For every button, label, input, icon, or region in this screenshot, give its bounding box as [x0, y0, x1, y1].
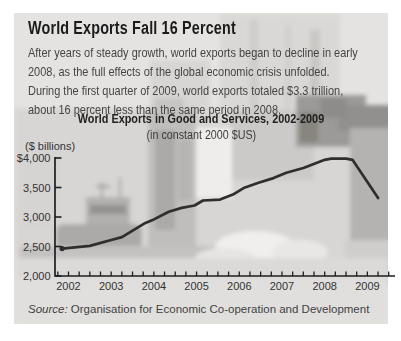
x-tick-label: 2004 — [142, 280, 166, 292]
y-tick-label: 3,500 — [23, 182, 51, 194]
y-tick-label: $4,000 — [17, 152, 51, 164]
exports-line — [62, 159, 378, 249]
x-tick-label: 2005 — [184, 280, 208, 292]
exports-line-chart: $4,0003,5003,0002,5002,00020022003200420… — [0, 0, 401, 341]
x-tick-label: 2002 — [56, 280, 80, 292]
x-tick-label: 2006 — [227, 280, 251, 292]
line-start-dot — [59, 246, 64, 251]
y-tick-label: 2,000 — [23, 270, 51, 282]
y-tick-label: 3,000 — [23, 211, 51, 223]
x-tick-label: 2008 — [312, 280, 336, 292]
infographic-page: { "header": { "title": "World Exports Fa… — [0, 0, 401, 341]
axes — [55, 157, 395, 276]
x-tick-label: 2003 — [99, 280, 123, 292]
x-tick-label: 2009 — [355, 280, 379, 292]
y-tick-label: 2,500 — [23, 241, 51, 253]
x-tick-label: 2007 — [270, 280, 294, 292]
